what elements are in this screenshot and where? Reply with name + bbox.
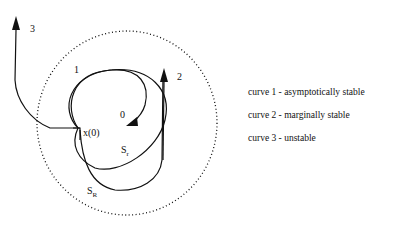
curve-2-arrowhead: [160, 68, 168, 82]
curve-1-label: 1: [74, 65, 79, 75]
stability-diagram: 1 2 3 0 x(0) Sr SR curve 1 - asymptotica…: [0, 0, 393, 225]
initial-state-notch: [73, 128, 80, 140]
large-region-subscript: R: [93, 191, 98, 199]
curve-1-arrowhead: [126, 117, 138, 126]
large-region-label: SR: [87, 186, 97, 199]
curve-2-label: 2: [177, 72, 182, 82]
legend-item-1: curve 1 - asymptotically stable: [248, 87, 365, 97]
curve-3-arrowhead: [12, 16, 20, 30]
small-region-label: Sr: [121, 145, 129, 158]
initial-state-label: x(0): [83, 128, 100, 138]
origin-label: 0: [120, 110, 125, 120]
curve-3-label: 3: [30, 24, 35, 34]
legend-item-2: curve 2 - marginally stable: [248, 110, 350, 120]
legend-item-3: curve 3 - unstable: [248, 133, 316, 143]
outer-dotted-circle: [37, 31, 217, 215]
small-region-subscript: r: [127, 150, 129, 158]
